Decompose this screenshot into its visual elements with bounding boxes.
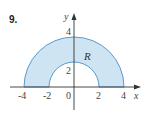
x-axis-arrow-icon	[134, 85, 141, 90]
y-tick-4: 4	[66, 26, 71, 37]
y-axis-arrow-icon	[72, 13, 77, 20]
x-tick-neg2: -2	[43, 90, 51, 101]
y-tick-2: 2	[66, 65, 71, 76]
half-annulus-diagram: y x 4 2 -4 -2 0 2 4 R	[0, 0, 146, 117]
x-axis-label: x	[133, 90, 139, 101]
region-label: R	[83, 50, 91, 62]
x-tick-neg4: -4	[18, 90, 26, 101]
y-axis-label: y	[63, 11, 69, 22]
x-tick-0: 0	[66, 90, 71, 101]
x-tick-2: 2	[96, 90, 101, 101]
x-tick-4: 4	[121, 90, 126, 101]
